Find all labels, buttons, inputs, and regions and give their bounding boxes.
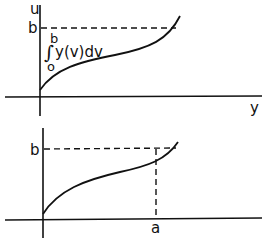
bottom-plot: b a: [5, 128, 262, 238]
integral-integrand: y(v)dv: [55, 43, 103, 61]
top-plot: u b y b ∫ y(v)dv o: [5, 0, 262, 117]
bottom-b-label: b: [30, 141, 40, 159]
bottom-a-label: a: [151, 219, 160, 237]
top-y-axis-label: y: [250, 99, 259, 117]
bottom-curve: [43, 142, 178, 214]
integral-lower-limit: o: [47, 59, 55, 74]
top-horizontal-axis: [5, 96, 262, 97]
top-b-label: b: [28, 19, 38, 37]
integral-expression: b ∫ y(v)dv o: [44, 31, 103, 74]
bottom-b-level-dashed-line: [44, 148, 176, 149]
top-u-axis-label: u: [30, 0, 40, 18]
diagram-canvas: u b y b ∫ y(v)dv o b a: [0, 0, 268, 238]
